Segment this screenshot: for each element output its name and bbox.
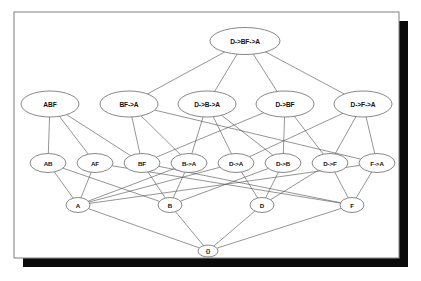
node-label-top: D->BF->A — [230, 38, 260, 45]
node-label-b_a: B->A — [182, 160, 197, 167]
lattice-node-d_bf[interactable]: D->BF — [256, 91, 314, 117]
lattice-node-f[interactable]: F — [340, 198, 364, 213]
node-label-d_b: D->B — [276, 160, 291, 167]
node-label-a: A — [76, 202, 81, 209]
node-label-d_f_a: D->F->A — [351, 101, 376, 108]
lattice-diagram-figure: D->BF->AABFBF->AD->B->AD->BFD->F->AABAFB… — [0, 0, 421, 281]
node-label-f: F — [350, 202, 354, 209]
lattice-node-abf[interactable]: ABF — [21, 91, 79, 117]
lattice-node-a[interactable]: A — [66, 198, 90, 213]
lattice-node-b_a[interactable]: B->A — [171, 154, 207, 173]
lattice-node-b[interactable]: B — [158, 198, 182, 213]
node-label-abf: ABF — [43, 101, 56, 108]
lattice-node-d_f[interactable]: D->F — [312, 154, 348, 173]
node-label-f_a: F->A — [370, 160, 384, 167]
node-label-af: AF — [91, 160, 99, 167]
lattice-node-ab[interactable]: AB — [30, 154, 66, 173]
lattice-node-d_b_a[interactable]: D->B->A — [178, 91, 236, 117]
lattice-node-f_a[interactable]: F->A — [359, 154, 395, 173]
lattice-node-af[interactable]: AF — [77, 154, 113, 173]
node-label-d_f: D->F — [323, 160, 337, 167]
lattice-node-empty[interactable]: {} — [198, 245, 218, 257]
node-label-bf: BF — [138, 160, 146, 167]
lattice-diagram-canvas: D->BF->AABFBF->AD->B->AD->BFD->F->AABAFB… — [0, 0, 421, 281]
lattice-node-d_f_a[interactable]: D->F->A — [334, 91, 392, 117]
lattice-node-d[interactable]: D — [250, 198, 274, 213]
node-label-d_b_a: D->B->A — [194, 101, 220, 108]
lattice-node-bf_a[interactable]: BF->A — [100, 91, 158, 117]
node-label-ab: AB — [44, 160, 53, 167]
frame-border — [14, 12, 399, 258]
node-label-d: D — [260, 202, 265, 209]
node-label-d_a: D->A — [229, 160, 244, 167]
lattice-node-d_a[interactable]: D->A — [218, 154, 254, 173]
lattice-node-bf[interactable]: BF — [124, 154, 160, 173]
lattice-node-top[interactable]: D->BF->A — [210, 28, 280, 55]
node-label-bf_a: BF->A — [119, 101, 138, 108]
node-label-b: B — [168, 202, 173, 209]
node-label-d_bf: D->BF — [275, 101, 294, 108]
lattice-node-d_b[interactable]: D->B — [265, 154, 301, 173]
node-label-empty: {} — [206, 248, 211, 254]
figure-frame — [14, 12, 408, 267]
